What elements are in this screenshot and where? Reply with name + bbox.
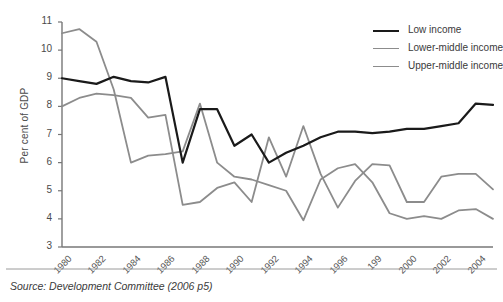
series-line-low-income (62, 77, 493, 163)
chart-figure: Per cent of GDP 11109876543 198019821984… (0, 0, 503, 302)
chart-axes (6, 22, 497, 269)
series-line-upper-middle-income (62, 29, 493, 220)
source-caption: Source: Development Committee (2006 p5) (10, 280, 213, 292)
chart-series-lines (62, 29, 493, 220)
series-line-lower-middle-income (62, 94, 493, 208)
chart-plot-area (0, 0, 503, 302)
